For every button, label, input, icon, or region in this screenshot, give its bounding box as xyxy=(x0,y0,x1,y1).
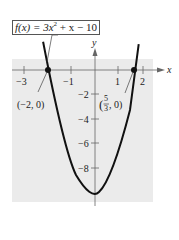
y-tick-label-neg4: −4 xyxy=(78,114,89,125)
x-tick-label-neg3: −3 xyxy=(16,76,27,87)
y-tick-label-neg6: −6 xyxy=(78,138,89,149)
intercept-point-left xyxy=(45,67,51,73)
intercept-label-left: (−2, 0) xyxy=(17,99,44,111)
svg-text:5: 5 xyxy=(104,94,108,103)
x-tick-label-neg1: −1 xyxy=(63,76,74,87)
equation-label: f(x) = 3x2 + x − 10 xyxy=(12,20,100,35)
y-axis-label: y xyxy=(91,37,97,48)
plot-background xyxy=(12,59,153,202)
y-axis-arrow-icon xyxy=(93,48,98,56)
x-axis-label: x xyxy=(166,64,172,75)
x-tick-label-1: 1 xyxy=(115,76,120,87)
svg-text:, 0): , 0) xyxy=(109,99,122,111)
equation-leader-line xyxy=(47,35,58,62)
x-axis-arrow-icon xyxy=(157,68,165,73)
y-tick-label-neg2: −2 xyxy=(78,89,89,100)
intercept-point-right xyxy=(131,67,137,73)
x-tick-label-2: 2 xyxy=(140,76,145,87)
y-tick-label-neg8: −8 xyxy=(78,163,89,174)
svg-text:(: ( xyxy=(99,97,103,112)
svg-text:3: 3 xyxy=(104,104,108,113)
